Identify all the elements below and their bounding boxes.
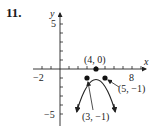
point-left-label: (3, −1) [82, 111, 109, 123]
x-axis [33, 66, 146, 69]
pointer-left-arrow-icon [88, 82, 93, 110]
y-axis [60, 13, 63, 126]
x-tick-label-8: 8 [129, 72, 134, 83]
vertex-point [93, 66, 98, 71]
vertex-label: (4, 0) [84, 54, 106, 66]
x-axis-label: x [143, 56, 149, 67]
parabola-curve [78, 80, 115, 110]
point-5-neg1 [102, 75, 107, 80]
point-right-label: (5, −1) [118, 83, 145, 95]
y-tick-label-neg5: −5 [44, 109, 55, 120]
x-tick-label-neg2: −2 [33, 72, 44, 83]
parabola-graph: x y −2 8 5 −5 (4, 0) (5, −1) (3, −1) [0, 0, 158, 134]
right-arrow-icon [114, 104, 115, 112]
point-3-neg1 [84, 75, 89, 80]
left-arrow-icon [77, 104, 78, 112]
y-tick-label-5: 5 [51, 18, 56, 29]
